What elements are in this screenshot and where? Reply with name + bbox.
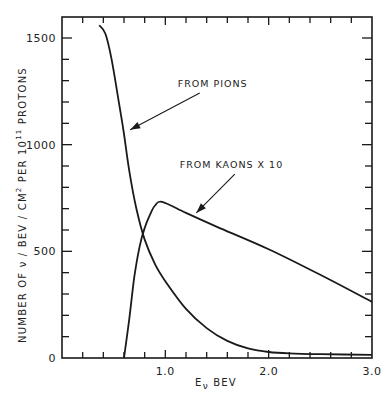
kaon-flux-curve bbox=[124, 202, 372, 358]
annotation-arrow-line bbox=[130, 93, 200, 130]
neutrino-flux-chart: 1.02.03.0050010001500 FROM PIONSFROM KAO… bbox=[0, 0, 390, 404]
data-series bbox=[99, 25, 372, 358]
annotations: FROM PIONSFROM KAONS X 10 bbox=[130, 78, 283, 213]
pion-flux-curve bbox=[99, 25, 372, 355]
axis-ticks: 1.02.03.0050010001500 bbox=[26, 17, 382, 378]
x-tick-label: 1.0 bbox=[156, 365, 175, 378]
y-axis-label: NUMBER OF ν / BEV / CM2 PER 1011 PROTONS bbox=[15, 67, 28, 343]
x-tick-label: 3.0 bbox=[363, 365, 382, 378]
plot-axes bbox=[62, 17, 372, 358]
y-tick-label: 0 bbox=[49, 352, 57, 365]
plot-frame bbox=[62, 17, 372, 358]
y-tick-label: 1500 bbox=[26, 32, 56, 45]
y-tick-label: 1000 bbox=[26, 139, 56, 152]
arrowhead-icon bbox=[130, 122, 140, 130]
kaon-curve-label: FROM KAONS X 10 bbox=[180, 159, 283, 170]
y-tick-label: 500 bbox=[34, 245, 57, 258]
x-axis-label: Eν BEV bbox=[195, 377, 237, 391]
pion-curve-label: FROM PIONS bbox=[178, 78, 248, 89]
x-tick-label: 2.0 bbox=[259, 365, 278, 378]
